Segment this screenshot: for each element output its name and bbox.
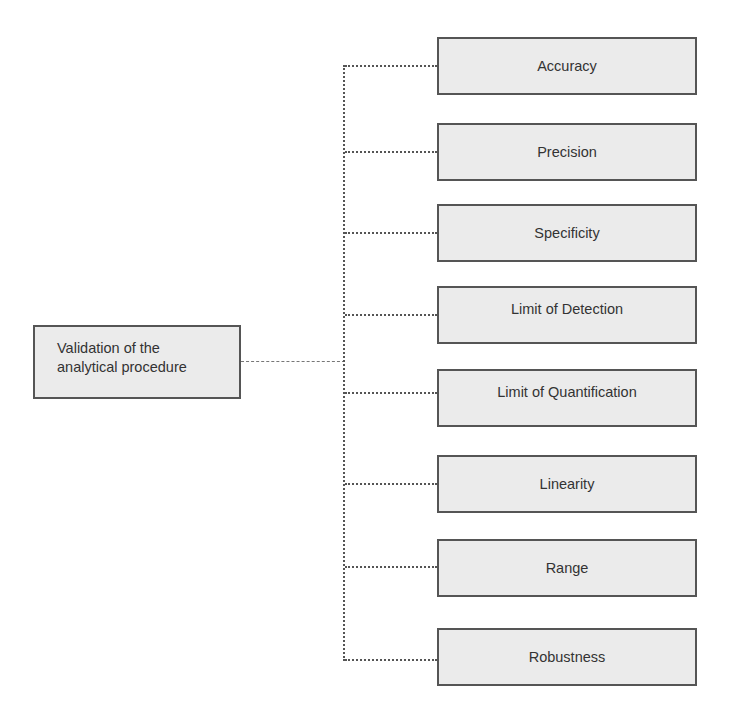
- node-label: Limit of Quantification: [497, 383, 636, 402]
- branch-connector-robustness: [345, 659, 437, 661]
- root-label-line1: Validation of the: [57, 339, 239, 358]
- node-accuracy: Accuracy: [437, 37, 697, 95]
- node-limit-of-quantification: Limit of Quantification: [437, 369, 697, 427]
- root-label-line2: analytical procedure: [57, 358, 239, 377]
- node-robustness: Robustness: [437, 628, 697, 686]
- node-range: Range: [437, 539, 697, 597]
- branch-connector-range: [345, 566, 437, 568]
- node-label: Limit of Detection: [511, 300, 623, 319]
- node-precision: Precision: [437, 123, 697, 181]
- node-label: Accuracy: [537, 57, 597, 76]
- node-linearity: Linearity: [437, 455, 697, 513]
- node-label: Specificity: [534, 224, 599, 243]
- branch-connector-accuracy: [345, 65, 437, 67]
- root-node: Validation of the analytical procedure: [33, 325, 241, 399]
- root-connector: [241, 361, 345, 362]
- node-label: Linearity: [540, 475, 595, 494]
- node-limit-of-detection: Limit of Detection: [437, 286, 697, 344]
- branch-connector-precision: [345, 151, 437, 153]
- branch-connector-specificity: [345, 232, 437, 234]
- branch-connector-linearity: [345, 483, 437, 485]
- node-label: Precision: [537, 143, 597, 162]
- branch-connector-limit-of-quantification: [345, 392, 437, 394]
- branch-connector-limit-of-detection: [345, 314, 437, 316]
- node-specificity: Specificity: [437, 204, 697, 262]
- spine-connector: [343, 65, 345, 661]
- node-label: Robustness: [529, 648, 606, 667]
- node-label: Range: [546, 559, 589, 578]
